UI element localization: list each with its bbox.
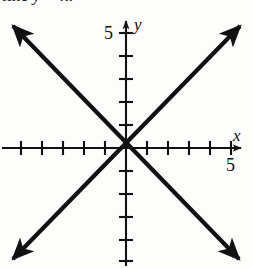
- y-tick-label-5: 5: [104, 24, 113, 42]
- graph-figure: line y = x.: [0, 0, 253, 268]
- x-tick-label-5: 5: [226, 156, 235, 174]
- coordinate-plane-plot: [0, 0, 253, 268]
- y-axis-label: y: [134, 16, 142, 33]
- x-axis-label: x: [233, 127, 241, 144]
